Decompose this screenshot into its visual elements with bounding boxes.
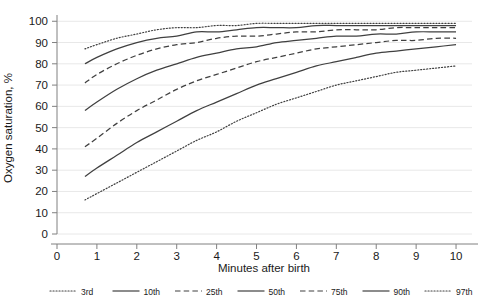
- x-axis-ticks-group: 012345678910: [54, 244, 463, 262]
- x-tick-label: 0: [54, 250, 60, 262]
- x-tick-label: 7: [333, 250, 339, 262]
- y-tick-label: 70: [35, 79, 48, 91]
- y-axis-title: Oxygen saturation, %: [2, 73, 14, 183]
- legend-label-10th: 10th: [144, 287, 161, 297]
- percentile-curve-3rd: [85, 66, 456, 200]
- legend-label-97th: 97th: [456, 287, 473, 297]
- x-tick-label: 5: [253, 250, 259, 262]
- x-tick-label: 2: [134, 250, 140, 262]
- percentile-curve-75th: [85, 27, 456, 82]
- x-axis-title: Minutes after birth: [218, 262, 310, 274]
- y-tick-label: 40: [35, 143, 48, 155]
- percentile-curve-90th: [85, 25, 456, 63]
- y-tick-label: 100: [29, 15, 48, 27]
- legend-label-75th: 75th: [331, 287, 348, 297]
- x-tick-label: 1: [94, 250, 100, 262]
- x-tick-label: 4: [213, 250, 220, 262]
- y-tick-label: 10: [35, 207, 48, 219]
- legend-label-50th: 50th: [269, 287, 286, 297]
- legend-label-3rd: 3rd: [81, 287, 94, 297]
- y-tick-label: 90: [35, 37, 48, 49]
- y-axis-ticks-group: 0102030405060708090100: [29, 15, 57, 240]
- y-tick-label: 30: [35, 164, 48, 176]
- legend-label-90th: 90th: [394, 287, 411, 297]
- x-tick-label: 6: [293, 250, 299, 262]
- x-tick-label: 8: [373, 250, 379, 262]
- chart-canvas: 0102030405060708090100 012345678910 Oxyg…: [0, 0, 490, 304]
- y-tick-label: 60: [35, 100, 48, 112]
- percentile-curve-10th: [85, 45, 456, 177]
- x-tick-label: 9: [413, 250, 419, 262]
- y-tick-label: 50: [35, 122, 48, 134]
- legend-label-25th: 25th: [206, 287, 223, 297]
- y-tick-label: 80: [35, 58, 48, 70]
- percentile-curves-group: [85, 23, 456, 200]
- legend: 3rd10th25th50th75th90th97th: [50, 287, 473, 297]
- gridlines-group: [57, 21, 472, 234]
- y-tick-label: 0: [42, 228, 48, 240]
- oxygen-saturation-percentile-chart: 0102030405060708090100 012345678910 Oxyg…: [0, 0, 490, 304]
- x-tick-label: 3: [174, 250, 180, 262]
- x-tick-label: 10: [450, 250, 463, 262]
- y-tick-label: 20: [35, 185, 48, 197]
